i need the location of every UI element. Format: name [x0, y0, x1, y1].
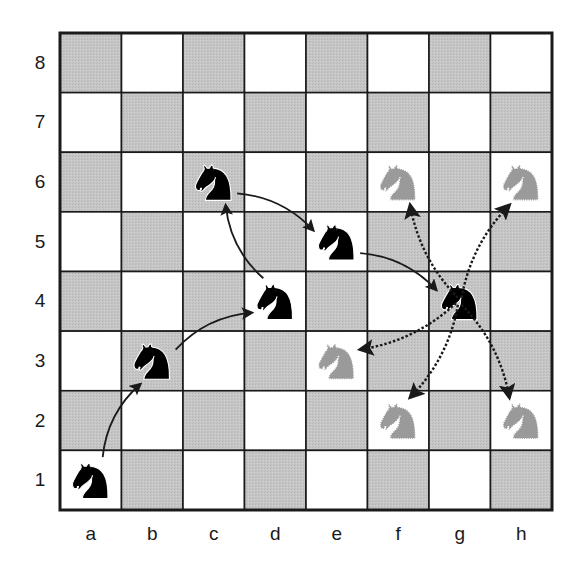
square-g7	[429, 93, 491, 153]
square-a6	[60, 152, 122, 212]
rank-label-1: 1	[25, 469, 55, 491]
square-b2	[122, 391, 184, 451]
square-b5	[122, 212, 184, 272]
file-label-b: b	[122, 523, 184, 545]
square-f7	[368, 93, 430, 153]
rank-label-5: 5	[25, 231, 55, 253]
square-d1	[245, 450, 307, 510]
file-label-a: a	[60, 523, 122, 545]
square-d4	[245, 272, 307, 332]
square-e7	[306, 93, 368, 153]
rank-label-6: 6	[25, 171, 55, 193]
square-c6	[183, 152, 245, 212]
square-c3	[183, 331, 245, 391]
square-d7	[245, 93, 307, 153]
file-label-d: d	[245, 523, 307, 545]
square-e2	[306, 391, 368, 451]
chess-diagram: 87654321 abcdefgh	[0, 0, 577, 568]
square-c1	[183, 450, 245, 510]
board-squares	[60, 33, 552, 510]
square-h8	[491, 33, 553, 93]
square-b6	[122, 152, 184, 212]
square-g8	[429, 33, 491, 93]
square-g6	[429, 152, 491, 212]
square-b4	[122, 272, 184, 332]
square-d5	[245, 212, 307, 272]
file-label-c: c	[183, 523, 245, 545]
square-g1	[429, 450, 491, 510]
rank-label-7: 7	[25, 111, 55, 133]
square-f8	[368, 33, 430, 93]
square-a1	[60, 450, 122, 510]
square-a4	[60, 272, 122, 332]
square-h1	[491, 450, 553, 510]
square-g4	[429, 272, 491, 332]
square-d3	[245, 331, 307, 391]
square-e5	[306, 212, 368, 272]
square-h5	[491, 212, 553, 272]
file-label-h: h	[491, 523, 553, 545]
square-e1	[306, 450, 368, 510]
square-d2	[245, 391, 307, 451]
square-c2	[183, 391, 245, 451]
square-a7	[60, 93, 122, 153]
file-label-e: e	[306, 523, 368, 545]
rank-label-2: 2	[25, 410, 55, 432]
square-b3	[122, 331, 184, 391]
square-d8	[245, 33, 307, 93]
square-c8	[183, 33, 245, 93]
square-b8	[122, 33, 184, 93]
square-h7	[491, 93, 553, 153]
square-a8	[60, 33, 122, 93]
square-e6	[306, 152, 368, 212]
square-a3	[60, 331, 122, 391]
file-label-f: f	[368, 523, 430, 545]
chessboard	[0, 0, 577, 568]
file-label-g: g	[429, 523, 491, 545]
square-e4	[306, 272, 368, 332]
rank-label-4: 4	[25, 290, 55, 312]
square-f4	[368, 272, 430, 332]
square-f1	[368, 450, 430, 510]
square-b7	[122, 93, 184, 153]
square-g2	[429, 391, 491, 451]
rank-label-3: 3	[25, 350, 55, 372]
rank-label-8: 8	[25, 52, 55, 74]
square-h4	[491, 272, 553, 332]
square-a5	[60, 212, 122, 272]
square-b1	[122, 450, 184, 510]
square-e8	[306, 33, 368, 93]
square-c7	[183, 93, 245, 153]
